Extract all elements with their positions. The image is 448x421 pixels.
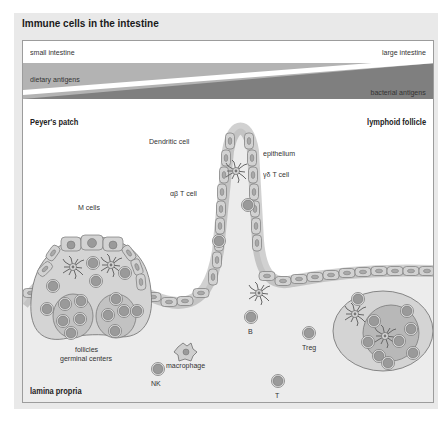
m-cells-label: M cells xyxy=(78,203,100,212)
small-intestine-label: small intestine xyxy=(30,48,75,57)
figure-title: Immune cells in the intestine xyxy=(22,18,159,29)
follicles-label: follicles xyxy=(75,345,98,354)
gd-t-cell xyxy=(242,199,255,212)
m-cells xyxy=(61,235,123,251)
epithelium-label: epithelium xyxy=(263,149,295,158)
b-cell xyxy=(245,311,258,324)
t-cell xyxy=(272,375,285,388)
ab-t-cell xyxy=(213,235,226,248)
nk-cell xyxy=(152,363,165,376)
large-intestine-label: large intestine xyxy=(382,48,426,57)
lamina-propria-label: lamina propria xyxy=(30,386,82,396)
ab-t-cell-label: αβ T cell xyxy=(170,189,197,198)
diagram-frame: small intestine large intestine dietary … xyxy=(22,40,434,403)
b-cell-label: B xyxy=(248,327,253,336)
t-cell-label: T xyxy=(275,391,279,400)
dendritic-cell-label: Dendritic cell xyxy=(149,137,189,146)
germinal-centers-label: germinal centers xyxy=(60,354,112,363)
macrophage-label: macrophage xyxy=(166,361,205,370)
peyers-patch xyxy=(31,235,152,340)
treg-cell xyxy=(303,327,316,340)
lymphoid-follicle xyxy=(333,291,433,371)
gd-t-cell-label: γδ T cell xyxy=(263,170,289,179)
treg-label: Treg xyxy=(302,343,316,352)
lymphoid-follicle-label: lymphoid follicle xyxy=(367,117,426,127)
peyers-patch-label: Peyer's patch xyxy=(30,117,78,127)
bacterial-antigens-label: bacterial antigens xyxy=(371,88,426,97)
dietary-antigens-label: dietary antigens xyxy=(30,75,80,84)
nk-label: NK xyxy=(151,379,161,388)
